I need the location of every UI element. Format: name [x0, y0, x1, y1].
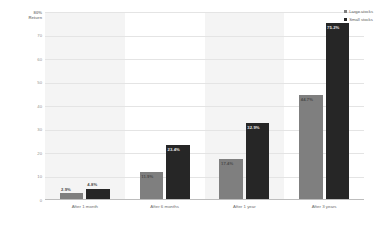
bar-value-label: 44.7%	[301, 97, 313, 102]
bar-group: 44.7%75.2%	[284, 12, 364, 200]
y-axis-tick-label: 10	[22, 174, 42, 179]
bar-value-label: 23.4%	[168, 147, 180, 152]
bar-value-label: 4.8%	[87, 182, 97, 187]
bar[interactable]: 11.9%	[140, 172, 164, 200]
y-axis-tick-label: 40	[22, 104, 42, 109]
bar-value-label: 17.4%	[221, 161, 233, 166]
bar-group: 17.4%32.9%	[205, 12, 285, 200]
y-axis-tick-label: 60	[22, 57, 42, 62]
bar[interactable]: 44.7%	[299, 95, 323, 200]
legend-item-large-stocks[interactable]: Large stocks	[344, 9, 373, 14]
x-axis-tick-label: After 1 month	[45, 204, 125, 209]
bar-chart: 80% Return 010203040506070 2.9%4.8%11.9%…	[0, 0, 379, 225]
bar-group: 11.9%23.4%	[125, 12, 205, 200]
bar-value-label: 32.9%	[247, 125, 259, 130]
y-axis-tick-label: 0	[22, 198, 42, 203]
y-axis-title: 80% Return	[22, 11, 42, 20]
bar[interactable]: 17.4%	[219, 159, 243, 200]
y-axis-tick-label: 50	[22, 80, 42, 85]
bar-value-label: 75.2%	[327, 25, 339, 30]
x-axis-tick-label: After 6 months	[125, 204, 205, 209]
x-axis-tick-label: After 1 year	[205, 204, 285, 209]
legend-label: Large stocks	[349, 9, 373, 14]
bar-group: 2.9%4.8%	[45, 12, 125, 200]
y-axis-tick-label: 70	[22, 33, 42, 38]
bar-value-label: 2.9%	[61, 187, 71, 192]
chart-legend: Large stocks Small stocks	[344, 9, 373, 22]
legend-swatch-icon	[344, 18, 348, 22]
y-axis-tick-label: 30	[22, 127, 42, 132]
axis-baseline	[45, 199, 364, 200]
y-axis-tick-label: 20	[22, 151, 42, 156]
legend-swatch-icon	[344, 10, 348, 14]
x-axis-tick-label: After 3 years	[284, 204, 364, 209]
plot-area: 2.9%4.8%11.9%23.4%17.4%32.9%44.7%75.2%	[45, 12, 364, 200]
legend-label: Small stocks	[349, 17, 373, 22]
y-axis-title-line2: Return	[29, 15, 43, 20]
legend-item-small-stocks[interactable]: Small stocks	[344, 17, 373, 22]
bar[interactable]: 75.2%	[326, 23, 350, 200]
bar[interactable]: 32.9%	[246, 123, 270, 200]
bar-value-label: 11.9%	[141, 174, 153, 179]
bar[interactable]: 23.4%	[166, 145, 190, 200]
